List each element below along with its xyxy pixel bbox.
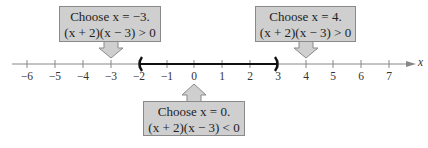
callout-line1: Choose x = 0. xyxy=(144,104,244,120)
tick-label: −1 xyxy=(161,70,173,82)
tick-label: 7 xyxy=(386,70,392,82)
tick-label: −2 xyxy=(133,70,145,82)
callout-line1: Choose x = −3. xyxy=(60,9,160,25)
tick-label: −5 xyxy=(49,70,61,82)
axis-variable-label: x xyxy=(418,56,423,68)
tick-label: 1 xyxy=(219,70,225,82)
tick-label: 6 xyxy=(358,70,364,82)
tick-label: −4 xyxy=(77,70,89,82)
tick-label: −6 xyxy=(21,70,33,82)
tick-label: 0 xyxy=(191,70,197,82)
tick-label: 4 xyxy=(303,70,309,82)
tick-label: 5 xyxy=(330,70,336,82)
callout-line1: Choose x = 4. xyxy=(256,9,355,25)
tick-label: −3 xyxy=(105,70,117,82)
arrow-down-right-icon xyxy=(294,41,318,58)
callout-test-value-neg3: Choose x = −3. (x + 2)(x − 3) > 0 xyxy=(59,6,161,42)
callout-test-value-4: Choose x = 4. (x + 2)(x − 3) > 0 xyxy=(255,6,356,42)
callout-line2: (x + 2)(x − 3) > 0 xyxy=(60,25,160,41)
arrow-up-bottom-icon xyxy=(182,84,206,102)
arrow-down-left-icon xyxy=(99,41,123,58)
callout-test-value-0: Choose x = 0. (x + 2)(x − 3) < 0 xyxy=(143,101,245,136)
number-line-diagram: −6 −5 −4 −3 −2 −1 0 1 2 3 4 5 6 7 x Choo… xyxy=(0,0,428,148)
tick-label: 2 xyxy=(247,70,253,82)
callout-line2: (x + 2)(x − 3) < 0 xyxy=(144,120,244,136)
tick-label: 3 xyxy=(275,70,281,82)
callout-line2: (x + 2)(x − 3) > 0 xyxy=(256,25,355,41)
axis-arrow-icon xyxy=(406,61,416,67)
